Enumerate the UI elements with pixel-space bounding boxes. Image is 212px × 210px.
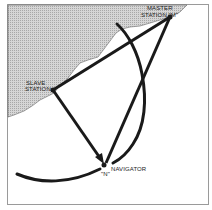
navigator-mark-label: "N" (101, 171, 110, 177)
master-station-label-line1: MASTER (147, 5, 173, 11)
navigation-diagram (0, 0, 212, 210)
slave-station-dot (51, 88, 56, 93)
slave-station-label-line2: STATION (25, 86, 51, 92)
navigator-dot (102, 163, 107, 168)
navigator-label: NAVIGATOR (111, 166, 146, 172)
master-station-label-line2: STATION "M" (141, 12, 178, 18)
